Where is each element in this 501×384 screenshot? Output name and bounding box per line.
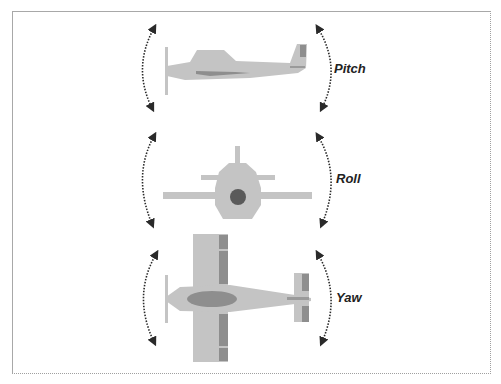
pitch-panel: Pitch bbox=[142, 28, 365, 108]
yaw-left-arrow-icon bbox=[143, 254, 156, 342]
yaw-right-arrow-icon bbox=[318, 254, 331, 342]
yaw-label: Yaw bbox=[336, 290, 362, 305]
pitch-left-arrow-icon bbox=[142, 28, 154, 108]
yaw-panel: Yaw bbox=[143, 234, 362, 362]
axes-diagram: Pitch Roll Ya bbox=[0, 0, 501, 384]
roll-label: Roll bbox=[336, 171, 361, 186]
pitch-label: Pitch bbox=[334, 61, 366, 76]
front-view-airplane-icon bbox=[163, 146, 312, 219]
roll-left-arrow-icon bbox=[142, 136, 154, 224]
roll-panel: Roll bbox=[142, 136, 360, 224]
roll-right-arrow-icon bbox=[318, 136, 331, 224]
side-view-airplane-icon bbox=[165, 44, 307, 95]
pitch-right-arrow-icon bbox=[318, 28, 331, 108]
top-view-airplane-icon bbox=[165, 234, 311, 362]
